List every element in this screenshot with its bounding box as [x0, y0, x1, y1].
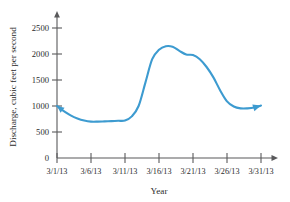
x-tick-label-2: 3/11/13 — [113, 167, 138, 176]
y-tick-label-500: 500 — [36, 127, 49, 137]
y-axis-title: Discharge, cubic feet per second — [8, 27, 18, 147]
y-axis — [52, 11, 62, 158]
discharge-curve — [57, 46, 261, 122]
y-tick-label-1000: 1000 — [32, 101, 49, 111]
y-tick-label-0: 0 — [45, 153, 49, 163]
x-tick-label-1: 3/6/13 — [81, 167, 102, 176]
x-tick-label-6: 3/31/13 — [248, 167, 273, 176]
series-discharge — [57, 46, 261, 122]
x-axis-arrowhead — [272, 155, 279, 161]
y-tick-label-1500: 1500 — [32, 75, 49, 85]
y-axis-arrowhead — [54, 11, 60, 18]
discharge-line-chart: 2500 2000 1500 1000 500 0 3/1/13 3/6/13 … — [0, 0, 290, 202]
curve-end-arrowhead — [252, 104, 261, 111]
x-axis — [57, 153, 278, 163]
x-tick-label-4: 3/21/13 — [180, 167, 205, 176]
chart-canvas: 2500 2000 1500 1000 500 0 3/1/13 3/6/13 … — [0, 0, 290, 202]
x-tick-label-3: 3/16/13 — [146, 167, 171, 176]
y-tick-label-2500: 2500 — [32, 23, 49, 33]
y-tick-label-2000: 2000 — [32, 49, 49, 59]
x-tick-label-5: 3/26/13 — [214, 167, 239, 176]
x-tick-label-0: 3/1/13 — [47, 167, 68, 176]
x-axis-title: Year — [151, 186, 168, 196]
